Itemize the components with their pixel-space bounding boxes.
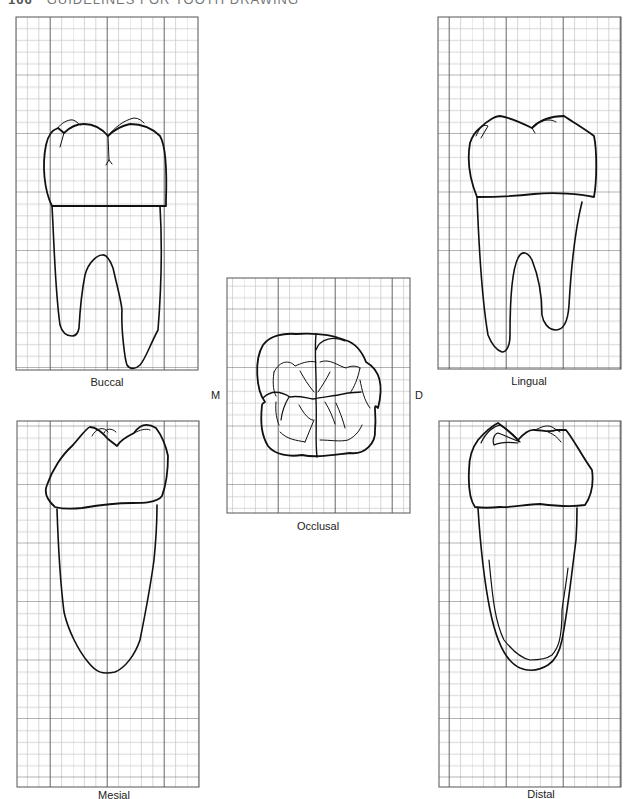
distal-grid: [439, 421, 621, 787]
mesial-marker: M: [211, 389, 220, 401]
buccal-label: Buccal: [90, 376, 123, 388]
mesial-grid: [17, 421, 199, 787]
lingual-grid: [438, 17, 621, 369]
mesial-label: Mesial: [98, 789, 130, 799]
buccal-grid: [16, 17, 198, 370]
occlusal-grid: [227, 278, 410, 513]
occlusal-label: Occlusal: [297, 520, 339, 532]
lingual-label: Lingual: [511, 375, 546, 387]
distal-marker: D: [415, 389, 423, 401]
distal-label: Distal: [527, 788, 555, 799]
tooth-drawing-figure: [0, 0, 632, 799]
